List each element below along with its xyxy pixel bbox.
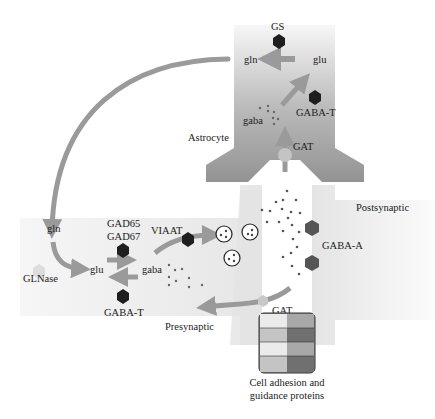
adhesion-label-line1: Cell adhesion and [249, 377, 325, 388]
pre-gabat-label: GABA-T [104, 307, 144, 318]
astro-gat-label: GAT [293, 141, 314, 152]
astro-gabat-label: GABA-T [296, 107, 336, 118]
presynaptic-region-label: Presynaptic [165, 321, 214, 332]
astro-glu-label: glu [313, 54, 327, 65]
pre-glu-label: glu [90, 264, 104, 275]
gabaa-label: GABA-A [322, 240, 363, 251]
gln-transfer-arrow [52, 59, 228, 230]
adhesion-proteins-icon [259, 313, 315, 373]
pre-gaba-label: gaba [142, 264, 162, 275]
pre-gln-label: gln [47, 223, 61, 234]
gad67-label: GAD67 [107, 231, 140, 242]
postsynaptic-region-label: Postsynaptic [356, 202, 409, 213]
gad65-label: GAD65 [107, 218, 140, 229]
gat-astrocyte-transporter [278, 148, 292, 162]
presynaptic-neuron [20, 185, 262, 345]
glnase-label: GLNase [23, 273, 58, 284]
gs-label: GS [271, 21, 285, 32]
astrocyte-region-label: Astrocyte [188, 132, 229, 143]
gaba-cycle-diagram: GS gln glu GABA-T gaba GAT Astrocyte gln… [0, 0, 435, 419]
viaat-label: VIAAT [151, 225, 183, 236]
astro-gaba-label: gaba [243, 115, 263, 126]
cleft-gaba-dots [261, 190, 302, 276]
astro-gln-label: gln [244, 54, 258, 65]
adhesion-label-line2: guidance proteins [250, 390, 324, 401]
